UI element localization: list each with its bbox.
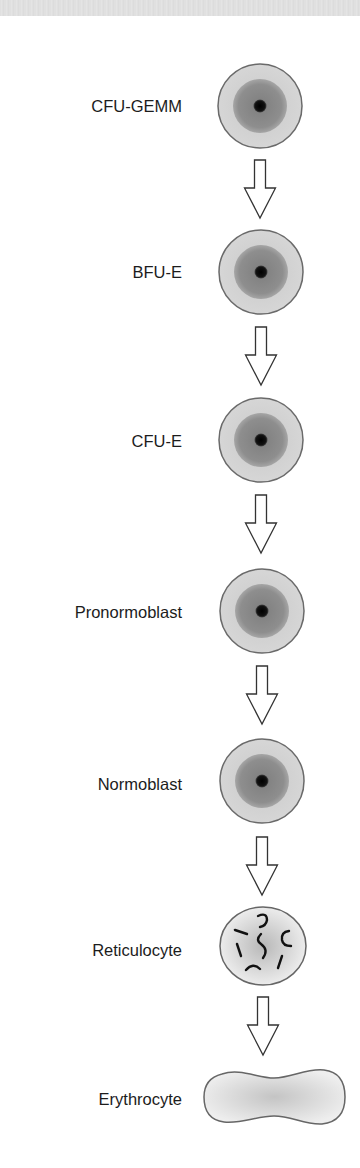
arrow-down-icon: [248, 997, 279, 1055]
progenitor-cell-icon: [218, 64, 302, 148]
progenitor-cell-icon: [220, 569, 304, 653]
erythrocyte-cell-icon: [204, 1070, 345, 1124]
progenitor-cell-icon: [220, 739, 304, 823]
arrow-down-icon: [247, 666, 278, 724]
arrow-down-icon: [245, 160, 276, 218]
reticulocyte-cell-icon: [220, 907, 306, 985]
arrow-down-icon: [246, 495, 277, 553]
lineage-diagram: [0, 0, 360, 1168]
progenitor-cell-icon: [219, 398, 303, 482]
arrow-down-icon: [247, 837, 278, 895]
progenitor-cell-icon: [219, 230, 303, 314]
arrow-down-icon: [246, 327, 277, 385]
